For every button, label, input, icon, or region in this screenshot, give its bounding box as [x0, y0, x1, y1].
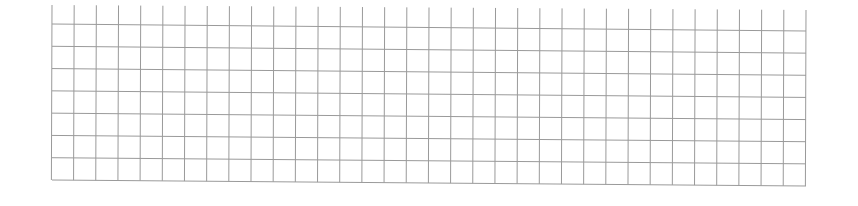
grid-vertical-line: [783, 10, 784, 186]
grid-vertical-line: [805, 10, 806, 186]
grid-vertical-line: [539, 8, 540, 184]
grid-vertical-line: [428, 8, 429, 184]
grid-vertical-line: [340, 7, 341, 182]
grid-vertical-line: [273, 6, 274, 181]
grid-vertical-line: [473, 8, 474, 184]
grid-vertical-line: [118, 5, 119, 180]
grid-vertical-line: [184, 6, 185, 181]
grid-vertical-line: [451, 8, 452, 184]
grid-vertical-line: [739, 10, 740, 186]
grid-horizontal-line: [52, 180, 806, 186]
grid-vertical-line: [207, 6, 208, 181]
grid-vertical-line: [140, 6, 141, 181]
grid-vertical-line: [295, 7, 296, 182]
ruled-grid: [0, 0, 858, 206]
grid-vertical-line: [628, 9, 629, 185]
grid-vertical-line: [517, 8, 518, 184]
grid-vertical-line: [96, 5, 97, 180]
grid-vertical-line: [672, 9, 673, 185]
grid-vertical-line: [650, 9, 651, 185]
grid-vertical-line: [318, 7, 319, 182]
grid-vertical-line: [74, 5, 75, 180]
grid-vertical-line: [584, 9, 585, 185]
grid-vertical-line: [362, 7, 363, 182]
grid-vertical-line: [761, 10, 762, 186]
grid-vertical-line: [561, 8, 562, 184]
grid-vertical-line: [251, 6, 252, 181]
grid-vertical-line: [695, 9, 696, 185]
grid-vertical-line: [717, 9, 718, 185]
grid-horizontal-line: [52, 158, 806, 164]
grid-vertical-line: [229, 6, 230, 181]
grid-vertical-line: [51, 5, 52, 180]
grid-vertical-line: [384, 7, 385, 182]
grid-vertical-line: [606, 9, 607, 185]
grid-vertical-line: [162, 6, 163, 181]
grid-vertical-line: [495, 8, 496, 184]
grid-vertical-line: [406, 7, 407, 182]
